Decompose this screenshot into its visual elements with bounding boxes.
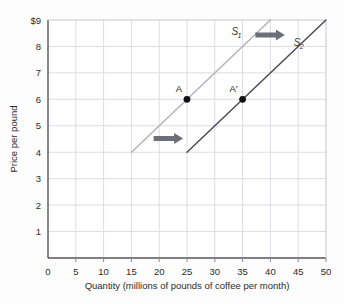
x-tick-label-15: 15 xyxy=(126,266,137,277)
curve-label-subscript-S2: 2 xyxy=(299,43,304,50)
y-axis-title: Price per pound xyxy=(8,105,19,172)
x-tick-label-40: 40 xyxy=(265,266,276,277)
x-tick-label-35: 35 xyxy=(237,266,248,277)
x-axis-title: Quantity (millions of pounds of coffee p… xyxy=(85,280,290,291)
chart-canvas: 05101520253035404550 12345678$9 S1S2 AA′… xyxy=(0,0,344,304)
supply-shift-chart: 05101520253035404550 12345678$9 S1S2 AA′… xyxy=(0,0,344,304)
y-tick-label-5: 5 xyxy=(36,120,41,131)
y-tick-label-3: 3 xyxy=(36,173,41,184)
x-tick-label-20: 20 xyxy=(154,266,165,277)
x-tick-label-30: 30 xyxy=(210,266,221,277)
x-tick-label-25: 25 xyxy=(182,266,193,277)
y-tick-label-4: 4 xyxy=(36,147,41,158)
y-tick-label-8: 8 xyxy=(36,41,41,52)
data-point-A-prime xyxy=(239,96,246,103)
x-tick-label-50: 50 xyxy=(321,266,332,277)
data-point-A xyxy=(184,96,191,103)
y-tick-label-6: 6 xyxy=(36,94,41,105)
x-tick-label-45: 45 xyxy=(293,266,304,277)
y-tick-label-2: 2 xyxy=(36,200,41,211)
data-point-label-A: A xyxy=(176,83,183,94)
x-tick-label-5: 5 xyxy=(73,266,78,277)
x-tick-label-10: 10 xyxy=(98,266,109,277)
y-tick-label-7: 7 xyxy=(36,67,41,78)
y-tick-label-9: $9 xyxy=(30,15,41,26)
data-point-label-A-prime: A′ xyxy=(230,83,238,94)
y-tick-label-1: 1 xyxy=(36,226,41,237)
curve-label-subscript-S1: 1 xyxy=(237,32,241,39)
x-tick-label-0: 0 xyxy=(45,266,50,277)
